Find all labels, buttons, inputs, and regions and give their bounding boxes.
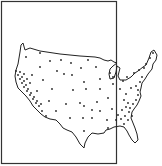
location-dot (91, 109, 93, 111)
location-dot (141, 76, 143, 78)
location-dot (26, 78, 28, 80)
location-dot (99, 110, 101, 112)
location-dot (48, 100, 50, 102)
location-dot (130, 87, 132, 89)
location-dot (23, 80, 25, 82)
location-dot (137, 89, 139, 91)
location-dot (39, 66, 41, 68)
location-dot (95, 66, 97, 68)
location-dot (30, 92, 32, 94)
location-dot (21, 82, 23, 84)
location-dot (127, 102, 129, 104)
us-map (0, 0, 162, 166)
map-background (0, 0, 162, 166)
location-dot (109, 72, 111, 74)
location-dot (111, 108, 113, 110)
location-dot (83, 130, 85, 132)
location-dot (69, 117, 71, 119)
location-dot (127, 119, 129, 121)
location-dot (39, 52, 41, 54)
location-dot (112, 83, 114, 85)
location-dot (25, 56, 27, 58)
location-dot (123, 99, 125, 101)
location-dot (120, 118, 122, 120)
location-dot (17, 74, 19, 76)
location-dot (152, 52, 154, 54)
location-dot (25, 84, 27, 86)
location-dot (27, 88, 29, 90)
location-dot (126, 76, 128, 78)
location-dot (131, 115, 133, 117)
location-dot (123, 123, 125, 125)
location-dot (112, 76, 114, 78)
location-dot (65, 103, 67, 105)
location-dot (45, 115, 47, 117)
location-dot (129, 107, 131, 109)
location-dot (132, 103, 134, 105)
location-dot (40, 103, 42, 105)
location-dot (71, 74, 73, 76)
location-dot (91, 117, 93, 119)
location-dot (106, 119, 108, 121)
location-dot (82, 117, 84, 119)
location-dot (33, 96, 35, 98)
location-dot (128, 111, 130, 113)
location-dot (32, 98, 34, 100)
location-dot (87, 59, 89, 61)
location-dot (125, 93, 127, 95)
location-dot (119, 88, 121, 90)
location-dot (42, 79, 44, 81)
location-dot (138, 69, 140, 71)
location-dot (23, 86, 25, 88)
location-dot (80, 67, 82, 69)
location-dot (117, 114, 119, 116)
location-dot (23, 73, 25, 75)
location-dot (19, 78, 21, 80)
location-dot (79, 102, 81, 104)
location-dot (15, 70, 17, 72)
location-dot (107, 97, 109, 99)
location-dot (85, 88, 87, 90)
location-dot (143, 67, 145, 69)
location-dot (41, 110, 43, 112)
location-dot (63, 73, 65, 75)
location-dot (60, 59, 62, 61)
location-dot (21, 76, 23, 78)
location-dot (72, 89, 74, 91)
location-dot (133, 72, 135, 74)
location-dot (35, 102, 37, 104)
location-dot (122, 80, 124, 82)
location-dot (139, 81, 141, 83)
location-dot (19, 71, 21, 73)
location-dot (99, 88, 101, 90)
location-dot (83, 81, 85, 83)
location-dot (51, 88, 53, 90)
location-dot (56, 70, 58, 72)
location-dot (125, 106, 127, 108)
location-dot (99, 78, 101, 80)
location-dot (121, 109, 123, 111)
location-dot (70, 62, 72, 64)
location-dot (49, 60, 51, 62)
location-dot (135, 85, 137, 87)
location-dot (149, 57, 151, 59)
location-dot (137, 94, 139, 96)
location-dot (36, 100, 38, 102)
location-dot (96, 101, 98, 103)
location-dot (83, 105, 85, 107)
location-dot (55, 110, 57, 112)
location-dot (38, 105, 40, 107)
location-dot (26, 90, 28, 92)
location-dot (29, 82, 31, 84)
location-dot (29, 94, 31, 96)
location-dot (36, 90, 38, 92)
location-dot (31, 74, 33, 76)
location-dot (107, 127, 109, 129)
location-dot (115, 119, 117, 121)
location-dot (145, 63, 147, 65)
location-dot (135, 99, 137, 101)
location-dot (124, 115, 126, 117)
